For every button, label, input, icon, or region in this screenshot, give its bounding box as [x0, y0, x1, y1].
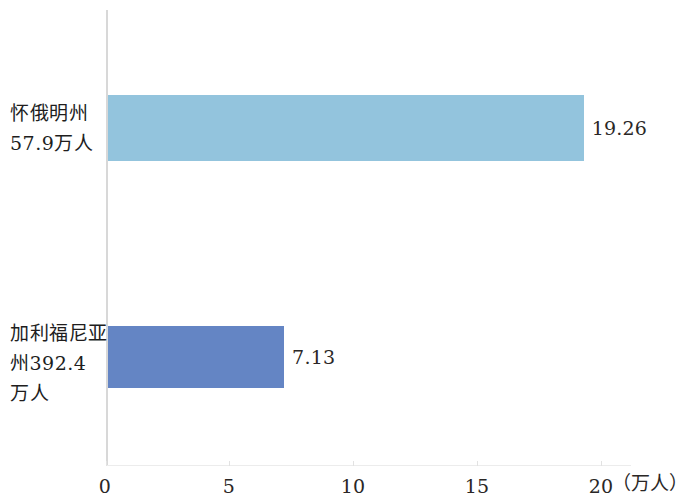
x-axis-line: [106, 465, 631, 466]
category-label-1: 加利福尼亚 州392.4 万人: [10, 318, 100, 408]
x-axis-tick-label-2: 10: [323, 474, 383, 498]
value-label-1: 7.13: [292, 346, 335, 368]
x-axis-tick-4: [601, 461, 602, 466]
category-label-1-line-1: 州392.4: [10, 348, 100, 378]
x-axis-tick-label-3: 15: [447, 474, 507, 498]
x-axis-tick-label-0: 0: [75, 474, 135, 498]
bar-series-0: [108, 95, 584, 161]
category-label-0-line-0: 怀俄明州: [10, 98, 100, 128]
bar-series-1: [108, 326, 284, 388]
x-axis-unit-label: （万人）: [612, 470, 678, 496]
x-axis-tick-0: [106, 461, 107, 466]
x-axis-tick-3: [477, 461, 478, 466]
x-axis-tick-2: [353, 461, 354, 466]
value-label-0: 19.26: [592, 117, 647, 139]
category-label-1-line-2: 万人: [10, 378, 100, 408]
y-axis-line: [106, 10, 108, 466]
category-label-0-line-1: 57.9万人: [10, 128, 100, 158]
x-axis-tick-label-1: 5: [199, 474, 259, 498]
category-label-0: 怀俄明州 57.9万人: [10, 98, 100, 158]
bar-chart: 0 5 10 15 20 （万人） 怀俄明州 57.9万人 19.26 加利福尼…: [0, 0, 678, 504]
x-axis-tick-1: [229, 461, 230, 466]
category-label-1-line-0: 加利福尼亚: [10, 318, 100, 348]
